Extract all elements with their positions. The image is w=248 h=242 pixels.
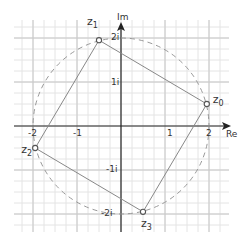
y-tick-label: -2i (101, 209, 112, 218)
y-tick-label: -1i (106, 165, 117, 174)
point-label-z1: z1 (87, 16, 98, 30)
point-z3 (140, 209, 145, 214)
point-label-z2: z2 (21, 144, 32, 158)
point-z2 (33, 145, 38, 150)
y-axis-label: Im (117, 13, 128, 22)
y-tick-label: 1i (111, 78, 119, 87)
x-tick-label: -1 (73, 129, 82, 138)
x-tick-label: 2 (206, 129, 212, 138)
x-tick-label: -2 (28, 129, 37, 138)
point-label-z3: z3 (141, 218, 152, 232)
point-z0 (204, 101, 209, 106)
y-tick-label: 2i (111, 33, 119, 42)
x-tick-label: 1 (167, 129, 173, 138)
complex-plane-diagram (0, 0, 248, 242)
point-label-z0: z0 (213, 94, 224, 108)
point-z1 (96, 38, 101, 43)
x-axis-label: Re (226, 130, 237, 139)
